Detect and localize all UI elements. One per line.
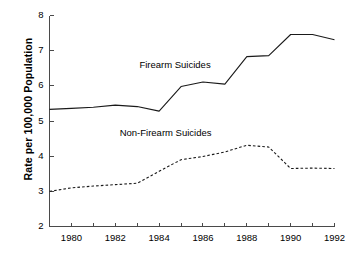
series-group xyxy=(50,34,335,191)
series-label-1: Non-Firearm Suicides xyxy=(120,127,212,138)
axis-lines xyxy=(50,16,335,227)
y-tick-label-7: 7 xyxy=(30,44,44,55)
tick-marks-group xyxy=(50,16,335,227)
x-tick-label-1986: 1986 xyxy=(183,232,223,243)
y-tick-label-6: 6 xyxy=(30,79,44,90)
y-tick-label-5: 5 xyxy=(30,115,44,126)
y-tick-label-4: 4 xyxy=(30,150,44,161)
axes-group xyxy=(50,16,335,227)
series-label-0: Firearm Suicides xyxy=(139,59,210,70)
y-tick-label-2: 2 xyxy=(30,220,44,231)
x-tick-label-1984: 1984 xyxy=(139,232,179,243)
x-tick-label-1988: 1988 xyxy=(227,232,267,243)
y-tick-label-3: 3 xyxy=(30,185,44,196)
chart-container: Rate per 100,000 Population 2345678 1980… xyxy=(0,0,357,261)
series-line-0 xyxy=(50,34,335,111)
series-line-1 xyxy=(50,145,335,191)
y-tick-label-8: 8 xyxy=(30,9,44,20)
x-tick-label-1980: 1980 xyxy=(51,232,91,243)
x-tick-label-1990: 1990 xyxy=(271,232,311,243)
x-tick-label-1982: 1982 xyxy=(95,232,135,243)
x-tick-label-1992: 1992 xyxy=(315,232,355,243)
